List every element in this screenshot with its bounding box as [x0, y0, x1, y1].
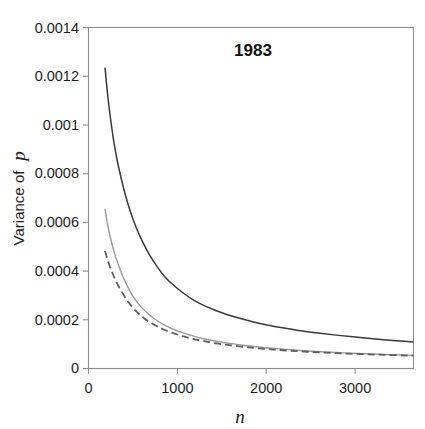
- y-tick-label-7: 0.0014: [35, 20, 79, 36]
- series-upper-curve: [105, 68, 413, 342]
- x-tick-label-0: 0: [84, 380, 92, 396]
- series-lower-curve: [105, 251, 413, 356]
- series-middle-curve: [105, 209, 413, 355]
- y-tick-label-5: 0.001: [43, 117, 79, 133]
- x-tick-label-1: 1000: [161, 380, 193, 396]
- y-axis: 0 0.0002 0.0004 0.0006 0.0008 0.001 0.00…: [35, 20, 89, 376]
- y-tick-label-1: 0.0002: [35, 312, 79, 328]
- plot-title: 1983: [234, 41, 272, 60]
- series-layer: [105, 68, 413, 356]
- x-tick-marks: [89, 369, 356, 375]
- variance-line-chart: 0 0.0002 0.0004 0.0006 0.0008 0.001 0.00…: [0, 0, 425, 429]
- y-tick-label-6: 0.0012: [35, 68, 79, 84]
- x-axis-title: n: [235, 406, 245, 427]
- y-axis-title-italic-p: p: [8, 151, 29, 163]
- chart-figure: 0 0.0002 0.0004 0.0006 0.0008 0.001 0.00…: [0, 0, 425, 429]
- y-tick-label-3: 0.0006: [35, 214, 79, 230]
- y-tick-label-2: 0.0004: [35, 263, 79, 279]
- y-axis-title: Variance of p: [8, 151, 29, 245]
- x-tick-label-3: 3000: [339, 380, 371, 396]
- y-tick-label-4: 0.0008: [35, 165, 79, 181]
- y-tick-label-0: 0: [71, 360, 79, 376]
- y-axis-title-plain: Variance of: [10, 170, 27, 246]
- x-axis: 0 1000 2000 3000: [84, 369, 371, 397]
- plot-frame: [89, 28, 414, 369]
- y-tick-marks: [83, 28, 89, 369]
- x-tick-label-2: 2000: [250, 380, 282, 396]
